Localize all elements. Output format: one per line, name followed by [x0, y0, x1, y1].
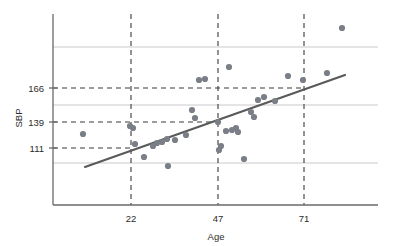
data-point [251, 114, 257, 120]
data-point [189, 107, 195, 113]
data-point [172, 137, 178, 143]
data-point [285, 73, 291, 79]
y-axis-title: SBP [13, 108, 24, 127]
figure-background [0, 0, 397, 246]
data-point [324, 70, 330, 76]
data-point [80, 131, 86, 137]
x-axis-title: Age [208, 231, 225, 242]
data-point [300, 77, 306, 83]
data-point [183, 132, 189, 138]
data-point [218, 143, 224, 149]
data-point [141, 154, 147, 160]
data-point [235, 129, 241, 135]
y-tick-label-111: 111 [30, 143, 44, 154]
scatter-plot-figure: 166 139 111 22 47 71 SBP Age [0, 0, 397, 246]
data-point [241, 156, 247, 162]
y-tick-label-166: 166 [28, 83, 44, 94]
data-point [272, 98, 278, 104]
data-point [130, 125, 136, 131]
x-tick-label-47: 47 [213, 213, 224, 224]
data-point [339, 25, 345, 31]
data-point [261, 94, 267, 100]
data-point [164, 136, 170, 142]
data-point [132, 141, 138, 147]
data-point [196, 77, 202, 83]
data-point [192, 115, 198, 121]
data-point [255, 97, 261, 103]
data-point [226, 64, 232, 70]
y-tick-label-139: 139 [28, 117, 44, 128]
plot-canvas: 166 139 111 22 47 71 SBP Age [0, 0, 397, 246]
x-tick-label-71: 71 [299, 213, 310, 224]
data-point [202, 76, 208, 82]
x-tick-label-22: 22 [126, 213, 137, 224]
data-point [223, 128, 229, 134]
data-point [165, 163, 171, 169]
data-point [215, 119, 221, 125]
